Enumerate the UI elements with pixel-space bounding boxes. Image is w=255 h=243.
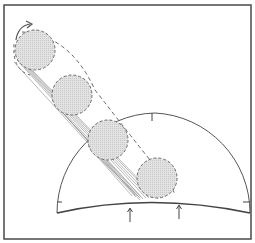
arrow-up-left-icon <box>128 208 133 222</box>
ball-1 <box>15 30 55 70</box>
arrow-up-right-icon <box>177 205 182 219</box>
ground-curve <box>57 203 250 214</box>
diagram-canvas <box>0 0 255 243</box>
ball-3 <box>88 120 128 160</box>
ball-2 <box>52 75 92 115</box>
diagram-svg <box>0 0 255 243</box>
ball-4 <box>137 158 177 198</box>
